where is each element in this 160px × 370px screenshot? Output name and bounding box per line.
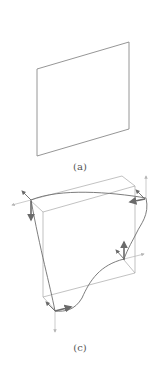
deformed-plate-drawing: [0, 170, 160, 370]
caption-c: (c): [0, 342, 160, 353]
corner-arrows: [22, 190, 145, 311]
figure-a: (a): [0, 0, 160, 180]
flat-plate-drawing: [0, 0, 160, 180]
arrow-diagonal-icon: [116, 250, 124, 259]
deformed-edges: [31, 192, 147, 311]
arrow-left-icon: [130, 199, 145, 202]
reference-box: [30, 176, 135, 310]
arrow-diagonal-icon: [136, 190, 145, 199]
arrow-right-icon: [55, 307, 71, 311]
arrow-diagonal-icon: [22, 191, 31, 200]
figure-c: (c): [0, 170, 160, 370]
plate-outline: [37, 42, 129, 156]
